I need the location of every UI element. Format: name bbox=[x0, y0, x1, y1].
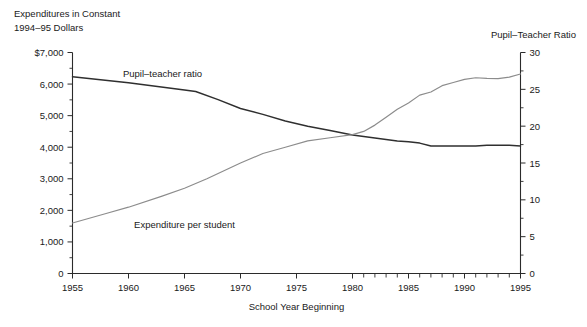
chart-page: Expenditures in Constant 1994–95 Dollars… bbox=[0, 0, 587, 327]
y-axis-tick-label: 5,000 bbox=[40, 110, 64, 121]
y-axis-tick-label: 0 bbox=[58, 268, 63, 279]
x-axis-tick-label: 1985 bbox=[398, 282, 419, 293]
x-axis-tick-label: 1975 bbox=[286, 282, 307, 293]
x-axis-tick-label: 1965 bbox=[174, 282, 195, 293]
y2-axis-tick-label: 30 bbox=[530, 47, 541, 58]
series-line-expenditure-per-student bbox=[73, 74, 521, 223]
y2-axis-tick-label: 10 bbox=[530, 194, 541, 205]
y-axis-tick-label: 4,000 bbox=[40, 142, 64, 153]
x-axis-title: School Year Beginning bbox=[249, 301, 345, 312]
y2-axis-tick-label: 0 bbox=[530, 268, 535, 279]
annotation-expenditure-per-student: Expenditure per student bbox=[134, 219, 235, 230]
x-axis-tick-label: 1995 bbox=[510, 282, 531, 293]
annotation-pupil-teacher-ratio: Pupil–teacher ratio bbox=[123, 68, 202, 79]
y2-axis-tick-label: 15 bbox=[530, 158, 541, 169]
y2-axis-tick-label: 5 bbox=[530, 231, 535, 242]
x-axis-tick-label: 1980 bbox=[342, 282, 363, 293]
x-axis-tick-label: 1990 bbox=[454, 282, 475, 293]
y-axis-tick-label: 6,000 bbox=[40, 79, 64, 90]
y2-axis-tick-label: 25 bbox=[530, 84, 541, 95]
y-axis-tick-label: $7,000 bbox=[34, 47, 63, 58]
y-axis-tick-label: 1,000 bbox=[40, 236, 64, 247]
x-axis-tick-label: 1960 bbox=[118, 282, 139, 293]
line-chart: 01,0002,0003,0004,0005,0006,000$7,000051… bbox=[0, 0, 587, 327]
x-axis-tick-label: 1970 bbox=[230, 282, 251, 293]
y2-axis-tick-label: 20 bbox=[530, 121, 541, 132]
y-axis-tick-label: 2,000 bbox=[40, 205, 64, 216]
plot-frame bbox=[73, 53, 521, 274]
series-line-pupil-teacher-ratio bbox=[73, 77, 521, 146]
y-axis-tick-label: 3,000 bbox=[40, 173, 64, 184]
x-axis-tick-label: 1955 bbox=[62, 282, 83, 293]
